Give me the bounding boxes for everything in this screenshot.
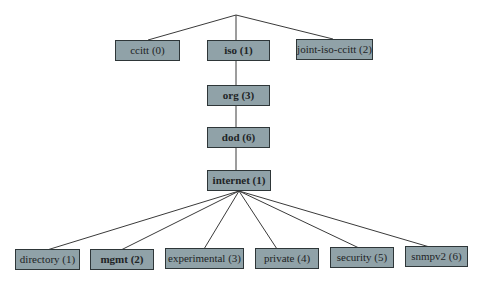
node-label: directory (1): [20, 253, 75, 265]
edge-root-ccitt: [148, 15, 236, 40]
node-label: internet (1): [213, 174, 266, 186]
node-joint-iso-ccitt: joint-iso-ccitt (2): [296, 39, 373, 60]
node-iso: iso (1): [207, 40, 270, 61]
edge-internet-directory: [47, 191, 239, 250]
edge-internet-security: [239, 191, 359, 248]
node-label: security (5): [337, 251, 387, 263]
node-ccitt: ccitt (0): [115, 40, 180, 61]
node-label: iso (1): [224, 44, 252, 56]
node-org: org (3): [207, 85, 270, 106]
node-label: dod (6): [222, 131, 255, 143]
node-label: joint-iso-ccitt (2): [297, 43, 372, 55]
node-label: org (3): [223, 89, 254, 101]
node-snmpv2: snmpv2 (6): [405, 246, 468, 267]
edge-root-joint-iso-ccitt: [236, 15, 333, 39]
node-label: mgmt (2): [100, 253, 143, 265]
node-directory: directory (1): [15, 249, 80, 270]
node-experimental: experimental (3): [165, 248, 244, 269]
node-mgmt: mgmt (2): [90, 249, 154, 270]
node-label: experimental (3): [168, 252, 241, 264]
node-internet: internet (1): [207, 170, 271, 191]
node-label: private (4): [264, 252, 310, 264]
node-label: snmpv2 (6): [411, 250, 461, 262]
node-private: private (4): [255, 248, 319, 269]
node-label: ccitt (0): [130, 44, 165, 56]
edge-internet-snmpv2: [239, 191, 433, 248]
node-dod: dod (6): [207, 127, 270, 148]
node-security: security (5): [330, 247, 394, 268]
